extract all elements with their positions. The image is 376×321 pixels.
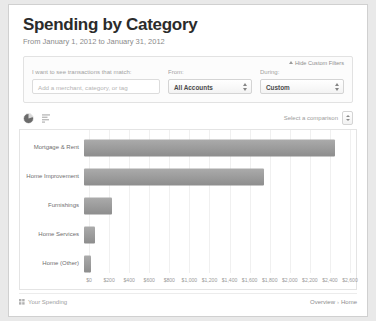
chart-toolbar: Select a comparison bbox=[23, 110, 353, 126]
comparison-control: Select a comparison bbox=[284, 111, 353, 125]
chart-bar-label: Furnishings bbox=[20, 202, 84, 209]
chart-bar-label: Home Improvement bbox=[20, 173, 84, 180]
account-select-value: All Accounts bbox=[174, 84, 213, 91]
chart-bar[interactable] bbox=[84, 168, 264, 185]
x-axis-tick-label: $0 bbox=[86, 277, 92, 283]
comparison-select[interactable] bbox=[342, 111, 353, 125]
chart-bars: Mortgage & RentHome ImprovementFurnishin… bbox=[20, 130, 356, 273]
chart-bar[interactable] bbox=[84, 255, 91, 272]
chart-bar-row: Furnishings bbox=[20, 191, 350, 220]
breadcrumb: Overview›Home bbox=[310, 299, 357, 305]
x-axis-tick-label: $1,400 bbox=[222, 277, 238, 283]
during-filter-label: During: bbox=[260, 69, 344, 76]
x-axis-tick-label: $1,000 bbox=[182, 277, 198, 283]
chart-bar-label: Mortgage & Rent bbox=[20, 144, 84, 151]
report-header: Spending by Category From January 1, 201… bbox=[9, 5, 367, 54]
stepper-arrows-icon bbox=[335, 83, 339, 91]
merchant-search-input[interactable]: Add a merchant, category, or tag bbox=[32, 79, 160, 94]
chart-view-toggle-group bbox=[23, 113, 52, 124]
x-axis-tick-label: $1,200 bbox=[202, 277, 218, 283]
merchant-filter-label: I want to see transactions that match: bbox=[32, 69, 160, 76]
filter-row: I want to see transactions that match: A… bbox=[32, 69, 344, 94]
x-axis-tick-label: $200 bbox=[103, 277, 114, 283]
breadcrumb-separator: › bbox=[337, 299, 339, 305]
pie-chart-icon[interactable] bbox=[23, 113, 34, 124]
chart-bar[interactable] bbox=[84, 197, 112, 214]
your-spending-label: Your Spending bbox=[28, 299, 67, 305]
x-axis-tick-label: $2,400 bbox=[322, 277, 338, 283]
chart-bar-track bbox=[84, 133, 350, 162]
during-select[interactable]: Custom bbox=[260, 79, 344, 94]
chart-bar-label: Home (Other) bbox=[20, 260, 84, 267]
chart-bar[interactable] bbox=[84, 139, 335, 156]
hide-custom-filters-link[interactable]: Hide Custom Filters bbox=[289, 60, 344, 66]
chart-bar[interactable] bbox=[84, 226, 95, 243]
hide-custom-filters-label: Hide Custom Filters bbox=[295, 60, 344, 66]
x-axis-tick-label: $600 bbox=[144, 277, 155, 283]
chart-bar-row: Home Services bbox=[20, 220, 350, 249]
bar-chart-icon[interactable] bbox=[41, 113, 52, 124]
chart-bar-track bbox=[84, 191, 350, 220]
chart-plot-area: Mortgage & RentHome ImprovementFurnishin… bbox=[20, 130, 356, 273]
account-select[interactable]: All Accounts bbox=[168, 79, 252, 94]
chart-bar-track bbox=[84, 220, 350, 249]
during-select-value: Custom bbox=[266, 84, 290, 91]
comparison-label: Select a comparison bbox=[284, 115, 338, 121]
chart-bar-label: Home Services bbox=[20, 231, 84, 238]
custom-filters-panel: Hide Custom Filters I want to see transa… bbox=[23, 56, 353, 103]
stepper-arrows-icon bbox=[243, 83, 247, 91]
chart-bar-track bbox=[84, 162, 350, 191]
breadcrumb-overview[interactable]: Overview bbox=[310, 299, 335, 305]
x-axis-tick-label: $2,200 bbox=[302, 277, 318, 283]
breadcrumb-current[interactable]: Home bbox=[341, 299, 357, 305]
your-spending-link[interactable]: Your Spending bbox=[19, 299, 67, 306]
account-filter-label: From: bbox=[168, 69, 252, 76]
x-axis-tick-label: $800 bbox=[164, 277, 175, 283]
spending-bar-chart: Mortgage & RentHome ImprovementFurnishin… bbox=[19, 129, 357, 290]
x-axis-tick-label: $1,800 bbox=[262, 277, 278, 283]
x-axis-tick-label: $400 bbox=[123, 277, 134, 283]
chart-bar-row: Home Improvement bbox=[20, 162, 350, 191]
page-title: Spending by Category bbox=[23, 15, 353, 34]
during-filter-field: During: Custom bbox=[260, 69, 344, 94]
date-range-subtitle: From January 1, 2012 to January 31, 2012 bbox=[23, 37, 353, 46]
spending-report-window: Spending by Category From January 1, 201… bbox=[8, 4, 368, 317]
x-axis-tick-label: $1,600 bbox=[242, 277, 258, 283]
merchant-filter-field: I want to see transactions that match: A… bbox=[32, 69, 160, 94]
chart-bar-row: Mortgage & Rent bbox=[20, 133, 350, 162]
report-footer: Your Spending Overview›Home bbox=[19, 293, 357, 310]
chart-x-axis: $0$200$400$600$800$1,000$1,200$1,400$1,6… bbox=[89, 273, 350, 289]
x-axis-tick-label: $2,000 bbox=[282, 277, 298, 283]
x-axis-tick-label: $2,600 bbox=[342, 277, 358, 283]
caret-up-icon bbox=[289, 61, 293, 64]
account-filter-field: From: All Accounts bbox=[168, 69, 252, 94]
grid-icon bbox=[19, 299, 25, 306]
